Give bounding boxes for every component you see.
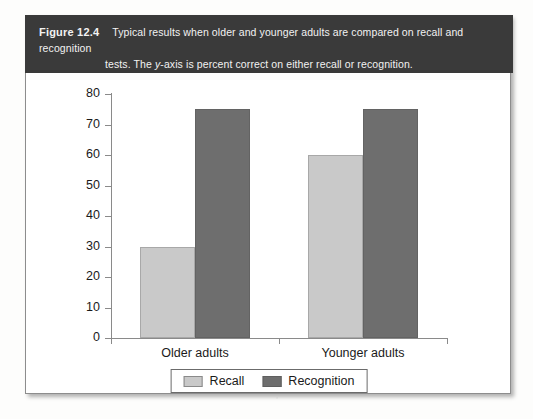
y-axis-tick: 40 [105, 216, 111, 217]
x-axis-tick [111, 338, 112, 344]
figure-number-label: Figure 12.4 [39, 26, 99, 38]
legend-swatch-recall-icon [184, 376, 203, 387]
legend-item-recall[interactable]: Recall [184, 374, 245, 388]
figure-container: Figure 12.4Typical results when older an… [25, 15, 511, 394]
y-axis-tick: 50 [105, 186, 111, 187]
y-axis-tick: 80 [105, 94, 111, 95]
y-axis-tick-label: 10 [86, 300, 100, 314]
y-axis-tick-label: 0 [93, 330, 100, 344]
legend-item-recognition[interactable]: Recognition [262, 374, 354, 388]
y-axis-tick: 30 [105, 247, 111, 248]
legend-swatch-recognition-icon [262, 376, 281, 387]
y-axis-tick: 70 [105, 125, 111, 126]
bar-recognition-younger [363, 109, 418, 338]
y-axis-tick-label: 20 [86, 269, 100, 283]
bar-recall-older [140, 247, 195, 339]
y-axis-tick: 10 [105, 308, 111, 309]
y-axis-line [111, 93, 112, 339]
y-axis-tick-label: 70 [86, 117, 100, 131]
x-axis-tick [447, 338, 448, 344]
y-axis-tick-label: 60 [86, 147, 100, 161]
legend-label-recognition: Recognition [288, 374, 354, 388]
bar-recognition-older [195, 109, 250, 338]
caption-text-line-2-post: -axis is percent correct on either recal… [160, 58, 413, 70]
y-axis-tick-label: 80 [86, 86, 100, 100]
y-axis-tick: 20 [105, 277, 111, 278]
caption-line-1: Figure 12.4Typical results when older an… [39, 24, 499, 56]
bar-recall-younger [308, 155, 363, 338]
figure-caption-header: Figure 12.4Typical results when older an… [25, 15, 513, 73]
caption-text-line-1: Typical results when older and younger a… [39, 26, 463, 54]
x-axis-tick [279, 338, 280, 344]
chart-plot-area: 01020304050607080 Older adultsYounger ad… [26, 74, 512, 395]
caption-line-2: tests. The y-axis is percent correct on … [39, 56, 499, 72]
y-axis-tick-label: 40 [86, 208, 100, 222]
caption-text-line-2-pre: tests. The [105, 58, 155, 70]
y-axis-tick-label: 30 [86, 239, 100, 253]
y-axis-tick-label: 50 [86, 178, 100, 192]
x-axis-category-label: Younger adults [322, 346, 405, 360]
legend-label-recall: Recall [210, 374, 245, 388]
x-axis-category-label: Older adults [161, 346, 228, 360]
y-axis-tick: 60 [105, 155, 111, 156]
chart-legend: Recall Recognition [171, 369, 368, 393]
